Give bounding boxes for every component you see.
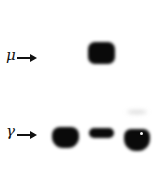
band-mu-lane2 <box>88 42 115 64</box>
band-gamma-lane3 <box>124 129 150 151</box>
gamma-arrow-icon <box>17 134 31 136</box>
mu-chain-label: μ <box>6 48 16 63</box>
band-gamma-lane2 <box>89 128 114 138</box>
faint-smear-lane3 <box>127 110 147 114</box>
mu-arrow-icon <box>17 57 31 59</box>
speck <box>140 132 143 135</box>
blot-figure: μ γ <box>0 0 161 175</box>
band-gamma-lane1 <box>52 127 79 148</box>
gamma-chain-label: γ <box>6 124 15 139</box>
